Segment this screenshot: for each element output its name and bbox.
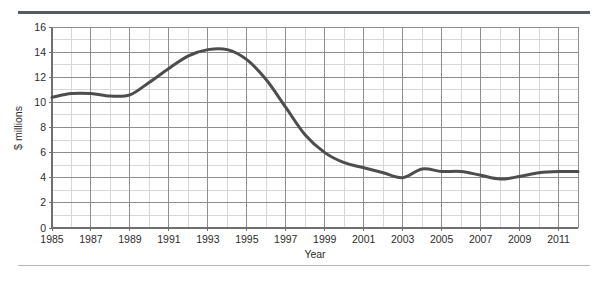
chart-page: 0246810121416 19851987198919911993199519… <box>0 0 597 281</box>
x-tick-label: 2003 <box>391 233 415 245</box>
series-path <box>52 49 578 179</box>
x-tick-label: 1995 <box>235 233 259 245</box>
y-tick-label: 6 <box>40 146 46 158</box>
y-tick-label: 10 <box>34 96 46 108</box>
x-tick-label: 2009 <box>508 233 532 245</box>
x-tick-label: 1991 <box>157 233 181 245</box>
y-tick-label: 16 <box>34 21 46 33</box>
data-series-line <box>52 49 578 179</box>
y-tick-label: 12 <box>34 71 46 83</box>
x-tick-label: 1999 <box>313 233 337 245</box>
y-tick-label: 8 <box>40 121 46 133</box>
x-tick-label: 2007 <box>469 233 493 245</box>
major-gridlines <box>52 27 578 228</box>
y-tick-label: 14 <box>34 46 46 58</box>
y-tick-label: 4 <box>40 171 46 183</box>
y-tick-label: 2 <box>40 196 46 208</box>
x-tick-label: 1985 <box>40 233 64 245</box>
chart-svg: 0246810121416 19851987198919911993199519… <box>0 0 597 281</box>
x-tick-label: 2011 <box>547 233 570 245</box>
x-tick-label: 2005 <box>430 233 454 245</box>
x-tick-label: 1993 <box>196 233 220 245</box>
y-tick-label: 0 <box>40 222 46 234</box>
x-tick-label: 1987 <box>79 233 103 245</box>
x-axis-tick-labels: 1985198719891991199319951997199920012003… <box>40 228 570 245</box>
x-tick-label: 1997 <box>274 233 298 245</box>
y-axis-title: $ millions <box>12 106 24 150</box>
line-chart: 0246810121416 19851987198919911993199519… <box>0 0 597 281</box>
x-tick-label: 2001 <box>352 233 376 245</box>
x-tick-label: 1989 <box>118 233 142 245</box>
y-axis-tick-labels: 0246810121416 <box>34 21 52 234</box>
x-axis-title: Year <box>304 248 326 260</box>
